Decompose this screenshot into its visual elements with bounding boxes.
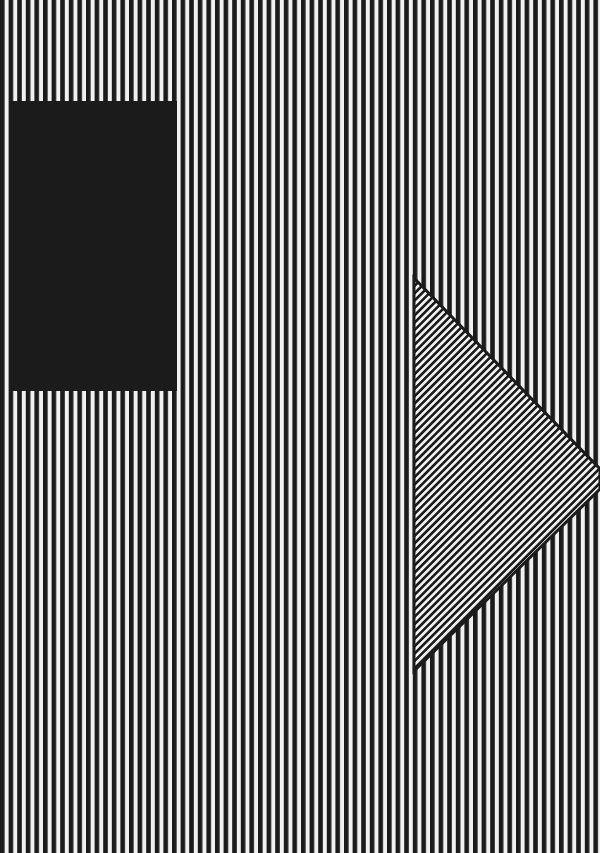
op-art-canvas: 600 xyxy=(0,0,600,853)
black-rectangle xyxy=(11,101,177,391)
op-art-graphic xyxy=(0,0,600,853)
